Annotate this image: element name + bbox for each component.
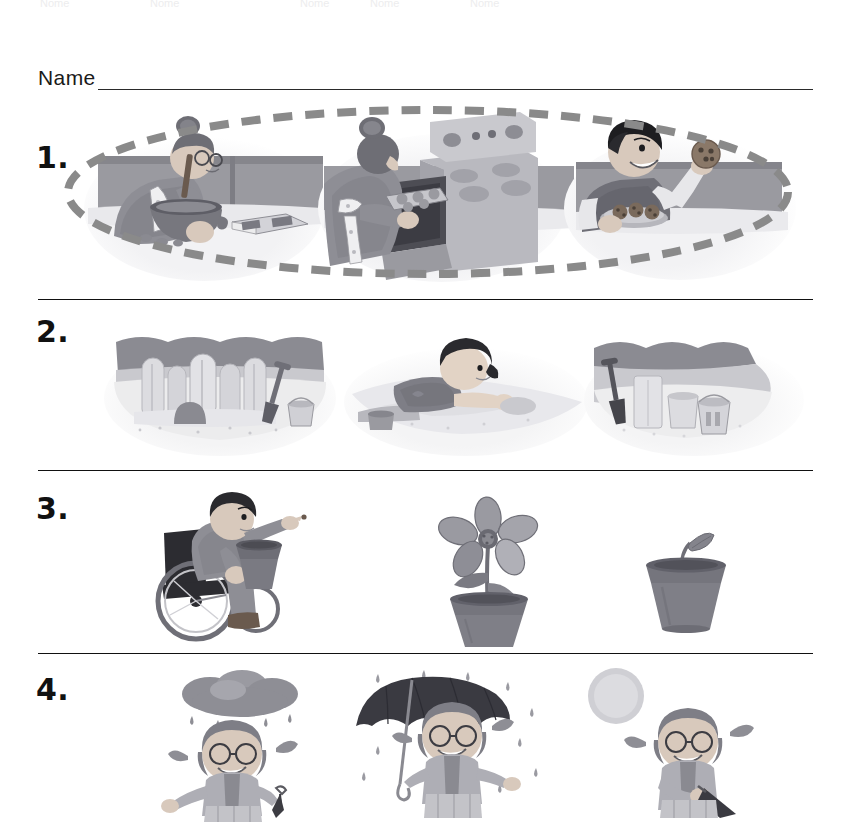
picture-flower-in-bloom (410, 487, 570, 647)
ghost-fragment: Nome (40, 0, 69, 9)
question-row-1: 1. (0, 104, 847, 284)
name-input-line[interactable] (98, 89, 813, 90)
rain-cloud (182, 670, 298, 717)
page-top-ghost-text: Nome Nome Nome Nome Nome (0, 0, 847, 14)
row-divider-3 (38, 653, 813, 654)
picture-cell[interactable] (576, 104, 820, 284)
picture-finished-sandcastle (100, 320, 340, 460)
ghost-fragment: Nome (300, 0, 329, 9)
picture-cell[interactable] (140, 489, 340, 644)
picture-cell[interactable] (150, 668, 340, 822)
picture-cell[interactable] (610, 515, 770, 645)
ghost-fragment: Nome (470, 0, 499, 9)
name-field-row: Name (38, 66, 813, 94)
picture-cell[interactable] (100, 320, 340, 460)
picture-sprout-in-pot (610, 515, 770, 645)
picture-umbrella-open-in-rain (350, 664, 560, 818)
picture-rain-cloud-umbrella-closed (150, 668, 340, 822)
picture-child-digging-sand (342, 320, 592, 460)
picture-cell[interactable] (342, 320, 592, 460)
row-number-3: 3. (36, 491, 69, 526)
picture-cell[interactable] (410, 487, 570, 647)
picture-cell[interactable] (580, 664, 780, 818)
name-label: Name (38, 66, 96, 90)
picture-sunshine-umbrella-down (580, 664, 780, 818)
picture-tray-into-oven (324, 104, 574, 284)
picture-cell[interactable] (324, 104, 574, 284)
row-number-1: 1. (36, 140, 69, 175)
ghost-fragment: Nome (150, 0, 179, 9)
question-row-3: 3. (0, 475, 847, 650)
question-row-4: 4. (0, 658, 847, 812)
question-row-2: 2. (0, 300, 847, 470)
picture-child-wheelchair-planting (140, 489, 340, 644)
picture-cell[interactable] (594, 320, 820, 460)
picture-boy-eating-cookie (576, 104, 820, 284)
ghost-fragment: Nome (370, 0, 399, 9)
picture-cell[interactable] (350, 664, 560, 818)
picture-sand-tools-start (594, 320, 820, 460)
picture-cell[interactable] (80, 104, 328, 284)
picture-mixing-batter (80, 104, 328, 284)
row-number-2: 2. (36, 314, 69, 349)
row-number-4: 4. (36, 672, 69, 707)
row-divider-2 (38, 470, 813, 471)
